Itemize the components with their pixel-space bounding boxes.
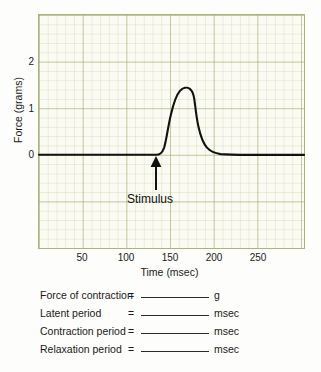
stimulus-label: Stimulus xyxy=(127,192,173,206)
x-tick-150: 150 xyxy=(150,252,190,263)
equals-sign: = xyxy=(128,307,138,319)
x-tick-250: 250 xyxy=(238,252,278,263)
answer-row-force-of-contraction: Force of contraction = g xyxy=(40,287,290,305)
answer-input-contraction-period[interactable] xyxy=(141,322,209,334)
answer-input-latent-period[interactable] xyxy=(141,304,209,316)
plot-area xyxy=(38,14,305,249)
answer-label: Relaxation period xyxy=(40,343,128,355)
answer-row-contraction-period: Contraction period = msec xyxy=(40,323,290,341)
answer-unit: msec xyxy=(214,325,239,337)
equals-sign: = xyxy=(128,289,138,301)
answer-unit: g xyxy=(214,289,220,301)
x-axis-title: Time (msec) xyxy=(0,266,321,278)
answer-row-relaxation-period: Relaxation period = msec xyxy=(40,341,290,359)
x-axis-ticks: 50 100 150 200 250 xyxy=(0,252,321,266)
twitch-curve xyxy=(39,15,304,248)
answer-row-latent-period: Latent period = msec xyxy=(40,305,290,323)
x-tick-100: 100 xyxy=(106,252,146,263)
answer-input-force-of-contraction[interactable] xyxy=(141,286,209,298)
answer-blanks-section: Force of contraction = g Latent period =… xyxy=(40,287,290,359)
y-axis-title: Force (grams) xyxy=(12,50,24,170)
answer-label: Contraction period xyxy=(40,325,128,337)
stimulus-arrow-icon xyxy=(148,156,164,190)
answer-input-relaxation-period[interactable] xyxy=(141,340,209,352)
equals-sign: = xyxy=(128,343,138,355)
answer-label: Force of contraction xyxy=(40,289,128,301)
x-axis-title-text: Time (msec) xyxy=(123,266,199,278)
answer-unit: msec xyxy=(214,343,239,355)
answer-label: Latent period xyxy=(40,307,128,319)
answer-unit: msec xyxy=(214,307,239,319)
x-tick-50: 50 xyxy=(62,252,102,263)
x-tick-200: 200 xyxy=(194,252,234,263)
muscle-twitch-worksheet-figure: 2 1 0 Force (grams) 50 100 150 200 250 T… xyxy=(0,0,321,372)
equals-sign: = xyxy=(128,325,138,337)
